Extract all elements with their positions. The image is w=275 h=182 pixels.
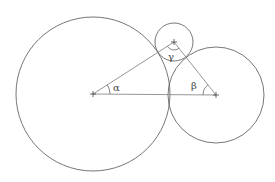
center-mark-large (90, 91, 96, 97)
angle-alpha-label: α (113, 82, 120, 93)
angle-gamma-label: γ (168, 51, 174, 62)
angle-beta-label: β (191, 80, 197, 91)
angle-gamma-arc (167, 46, 179, 50)
tangent-circles-diagram: α β γ (0, 0, 275, 182)
side-large-small (93, 42, 174, 94)
angle-alpha-arc (107, 85, 110, 94)
side-large-right (93, 94, 216, 95)
angle-beta-arc (203, 85, 208, 95)
